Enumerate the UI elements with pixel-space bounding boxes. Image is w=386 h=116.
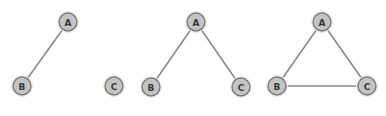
node-c: C bbox=[104, 76, 125, 97]
node-a: A bbox=[58, 12, 79, 33]
edges-layer bbox=[22, 22, 367, 87]
edge-a-c bbox=[196, 22, 241, 87]
edge-a-c bbox=[322, 22, 367, 86]
node-label: A bbox=[319, 18, 326, 28]
node-a: A bbox=[186, 12, 207, 33]
node-b: B bbox=[267, 76, 288, 97]
node-b: B bbox=[141, 77, 162, 98]
node-b: B bbox=[12, 76, 33, 97]
node-c: C bbox=[357, 76, 378, 97]
edge-a-b bbox=[22, 22, 68, 86]
edge-a-b bbox=[277, 22, 322, 86]
node-label: C bbox=[364, 82, 371, 92]
nodes-layer: ABCABCABC bbox=[12, 12, 378, 98]
node-a: A bbox=[312, 12, 333, 33]
edge-a-b bbox=[151, 22, 196, 87]
node-label: A bbox=[65, 18, 72, 28]
node-label: C bbox=[111, 82, 118, 92]
node-label: B bbox=[148, 83, 155, 93]
node-label: B bbox=[19, 82, 26, 92]
node-label: B bbox=[274, 82, 281, 92]
node-c: C bbox=[231, 77, 252, 98]
graph-diagram: ABCABCABC bbox=[0, 0, 386, 116]
node-label: C bbox=[238, 83, 245, 93]
node-label: A bbox=[193, 18, 200, 28]
